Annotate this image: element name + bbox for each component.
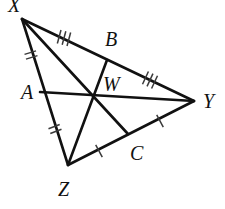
midpoint-label-a: A	[19, 81, 34, 103]
vertex-label-y: Y	[203, 90, 216, 112]
midpoint-label-c: C	[130, 142, 144, 164]
tick-mark-xb-triple	[57, 30, 70, 46]
midpoint-label-b: B	[105, 28, 117, 50]
geometry-diagram: X Y Z A B C W	[0, 0, 225, 209]
triangle-figure-svg: X Y Z A B C W	[0, 0, 225, 209]
vertex-label-z: Z	[58, 178, 70, 200]
centroid-label-w: W	[103, 73, 122, 95]
tick-mark-az-double	[49, 125, 62, 134]
tick-mark-by-triple	[143, 72, 158, 89]
vertex-label-x: X	[7, 0, 21, 16]
